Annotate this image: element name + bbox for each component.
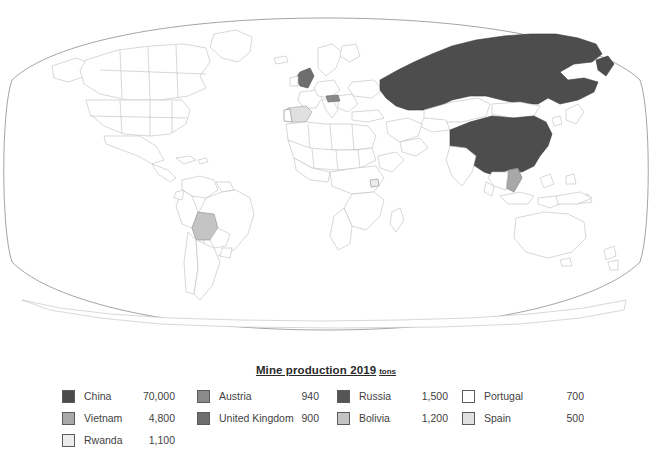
legend-swatch-united-kingdom — [197, 412, 210, 425]
legend-swatch-spain — [462, 412, 475, 425]
legend-label-united-kingdom: United Kingdom — [219, 412, 294, 424]
map-legend: China 70,000 Vietnam 4,800 Rwanda 1,100 … — [0, 388, 652, 466]
legend-label-portugal: Portugal — [484, 390, 523, 402]
legend-label-bolivia: Bolivia — [359, 412, 390, 424]
country-austria — [326, 95, 340, 102]
country-rwanda — [370, 179, 379, 187]
legend-label-vietnam: Vietnam — [84, 412, 122, 424]
legend-swatch-rwanda — [62, 434, 75, 447]
map-caption: Mine production 2019tons — [0, 360, 652, 378]
legend-value-russia: 1,500 — [422, 390, 462, 402]
legend-column-1: China 70,000 Vietnam 4,800 Rwanda 1,100 — [62, 388, 197, 448]
legend-column-3: Russia 1,500 Bolivia 1,200 — [337, 388, 462, 426]
legend-label-rwanda: Rwanda — [84, 434, 123, 446]
legend-value-rwanda: 1,100 — [149, 434, 197, 446]
legend-item-bolivia[interactable]: Bolivia 1,200 — [337, 410, 462, 426]
legend-swatch-vietnam — [62, 412, 75, 425]
legend-item-rwanda[interactable]: Rwanda 1,100 — [62, 432, 197, 448]
legend-value-austria: 940 — [301, 390, 337, 402]
legend-item-china[interactable]: China 70,000 — [62, 388, 197, 404]
world-choropleth-map — [0, 0, 652, 360]
legend-item-spain[interactable]: Spain 500 — [462, 410, 602, 426]
legend-value-vietnam: 4,800 — [149, 412, 197, 424]
legend-value-china: 70,000 — [143, 390, 197, 402]
legend-item-portugal[interactable]: Portugal 700 — [462, 388, 602, 404]
legend-label-austria: Austria — [219, 390, 252, 402]
legend-swatch-austria — [197, 390, 210, 403]
map-svg — [0, 0, 652, 360]
legend-swatch-bolivia — [337, 412, 350, 425]
legend-item-vietnam[interactable]: Vietnam 4,800 — [62, 410, 197, 426]
legend-value-bolivia: 1,200 — [422, 412, 462, 424]
caption-title: Mine production 2019 — [256, 364, 376, 376]
legend-column-2: Austria 940 United Kingdom 900 — [197, 388, 337, 426]
legend-swatch-portugal — [462, 390, 475, 403]
legend-label-spain: Spain — [484, 412, 511, 424]
legend-label-russia: Russia — [359, 390, 391, 402]
legend-swatch-china — [62, 390, 75, 403]
legend-label-china: China — [84, 390, 111, 402]
legend-item-united-kingdom[interactable]: United Kingdom 900 — [197, 410, 337, 426]
legend-column-4: Portugal 700 Spain 500 — [462, 388, 602, 426]
legend-item-russia[interactable]: Russia 1,500 — [337, 388, 462, 404]
legend-swatch-russia — [337, 390, 350, 403]
legend-value-portugal: 700 — [566, 390, 602, 402]
caption-unit: tons — [379, 367, 396, 376]
legend-value-spain: 500 — [566, 412, 602, 424]
legend-value-united-kingdom: 900 — [301, 412, 337, 424]
legend-item-austria[interactable]: Austria 940 — [197, 388, 337, 404]
